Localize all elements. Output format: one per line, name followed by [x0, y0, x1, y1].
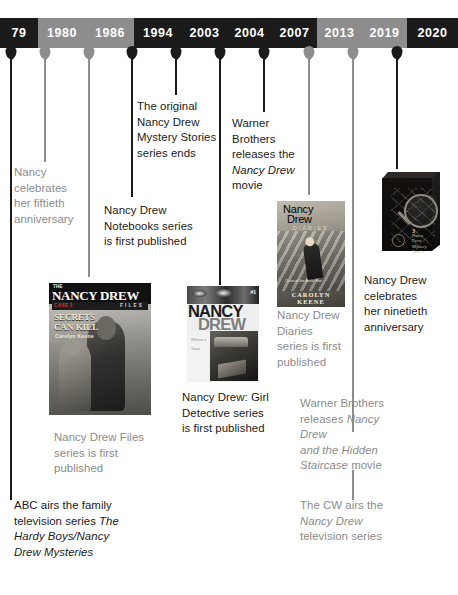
- connector-line-1980: [44, 57, 46, 162]
- box-label-line2: Mystery Stories: [412, 244, 427, 254]
- event-note-1980-fiftieth: Nancycelebratesher fiftiethanniversary: [14, 165, 98, 227]
- connector-line-2020: [396, 57, 398, 169]
- timeline-year-bar: 79 1980 1986 1994 2003 2004 2007 2013 20…: [0, 18, 458, 48]
- event-note-2013-diaries: Nancy DrewDiariesseries is firstpublishe…: [277, 308, 349, 370]
- cover-figure-secondary-head: [65, 337, 81, 356]
- cover-headline: SECRETS CAN KILL: [54, 313, 98, 332]
- book-cover-girl-detective: #1 NANCY DREW Without a Trace: [187, 286, 259, 382]
- cover-author: Carolyn Keene: [55, 333, 94, 339]
- book-cover-nancy-drew-diaries: Nancy Drew DIARIES Curse of the Arctic S…: [277, 201, 345, 307]
- box-badge-icon: [392, 234, 405, 247]
- year-segment-2019[interactable]: 2019: [362, 18, 407, 48]
- year-segment-2004[interactable]: 2004: [227, 18, 272, 48]
- cover-title-line3: DIARIES: [293, 225, 329, 231]
- year-segment-2003[interactable]: 2003: [182, 18, 227, 48]
- year-segment-2007[interactable]: 2007: [272, 18, 317, 48]
- cover-title-line2: Drew: [287, 213, 312, 225]
- cover-headline-line2: CAN KILL: [54, 322, 98, 332]
- cover-side-panel: Without a Trace: [188, 331, 209, 381]
- cover-issue-number: #1: [250, 289, 256, 295]
- cover-case-label: CASE 1: [54, 303, 73, 308]
- connector-line-1994: [131, 57, 133, 197]
- year-segment-1986[interactable]: 1986: [86, 18, 134, 48]
- event-note-2007-warner-movie: WarnerBrothersreleases theNancy Drewmovi…: [232, 116, 312, 194]
- connector-line-79: [10, 57, 12, 500]
- event-note-2019-hidden-staircase: Warner Brothersreleases Nancy Drewand th…: [300, 396, 398, 474]
- event-note-1994-notebooks: Nancy DrewNotebooks seriesis first publi…: [104, 203, 214, 250]
- connector-line-2019: [352, 57, 354, 432]
- year-segment-1980[interactable]: 1980: [38, 18, 86, 48]
- cover-imprint-band: CASE 1 FILES: [52, 302, 148, 310]
- cover-blurb: Curse of the Arctic Star: [285, 279, 322, 284]
- year-segment-79[interactable]: 79: [0, 18, 38, 48]
- box-label: Nancy Drew Mystery Stories: [412, 233, 432, 255]
- connector-line-2004: [219, 57, 221, 285]
- cover-photo: [210, 331, 258, 381]
- connector-line-2019-lower: [352, 470, 354, 500]
- connector-line-2007: [263, 57, 265, 112]
- book-cover-boxed-set: 3 Nancy Drew Mystery Stories: [376, 172, 446, 260]
- connector-line-2003: [175, 57, 177, 95]
- book-cover-nancy-drew-files: THE NANCY DREW CASE 1 FILES SECRETS CAN …: [49, 283, 151, 415]
- cover-headline-line1: SECRETS: [54, 312, 95, 322]
- year-segment-2020[interactable]: 2020: [407, 18, 458, 48]
- box-front-face: 3 Nancy Drew Mystery Stories: [382, 178, 432, 251]
- event-note-1979-abc: ABC airs the familytelevision series The…: [14, 498, 144, 560]
- year-segment-1994[interactable]: 1994: [134, 18, 182, 48]
- event-note-1986-files: Nancy Drew Filesseries is firstpublished: [54, 430, 158, 477]
- event-note-2019-cw-series: The CW airs theNancy Drewtelevision seri…: [300, 498, 400, 545]
- box-label-line1: Nancy Drew: [412, 233, 423, 243]
- event-note-2003-mystery-stories-end: The originalNancy DrewMystery Storiesser…: [137, 99, 233, 161]
- event-note-2004-girl-detective: Nancy Drew: GirlDetective seriesis first…: [182, 390, 286, 437]
- cover-figure-primary-head: [96, 316, 116, 340]
- cover-title-line2: DREW: [198, 316, 245, 332]
- year-segment-2013[interactable]: 2013: [317, 18, 362, 48]
- cover-author: CAROLYN KEENE: [277, 291, 345, 305]
- cover-subtitle: Without a Trace: [191, 336, 209, 354]
- event-note-2020-ninetieth: Nancy Drewcelebratesher ninetiethanniver…: [364, 273, 452, 335]
- cover-imprint-label: FILES: [120, 303, 144, 308]
